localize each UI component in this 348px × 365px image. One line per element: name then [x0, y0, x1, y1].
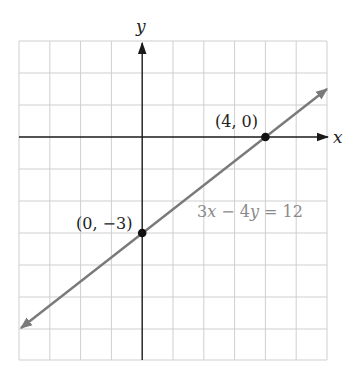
equation-part: = 12	[259, 202, 303, 221]
point-x-intercept	[261, 133, 270, 142]
equation-label: 3x − 4y = 12	[197, 202, 303, 221]
point-label-y-intercept: (0, −3)	[76, 214, 132, 233]
x-axis-label: x	[333, 127, 343, 147]
y-axis-label: y	[135, 16, 146, 36]
point-label-x-intercept: (4, 0)	[215, 112, 258, 131]
point-y-intercept	[138, 229, 147, 238]
coordinate-plane: y x (4, 0) (0, −3) 3x − 4y = 12	[0, 0, 348, 365]
equation-part: 3	[197, 202, 207, 221]
grid	[19, 41, 327, 360]
equation-part: − 4	[216, 202, 250, 221]
equation-part: x	[207, 202, 216, 221]
